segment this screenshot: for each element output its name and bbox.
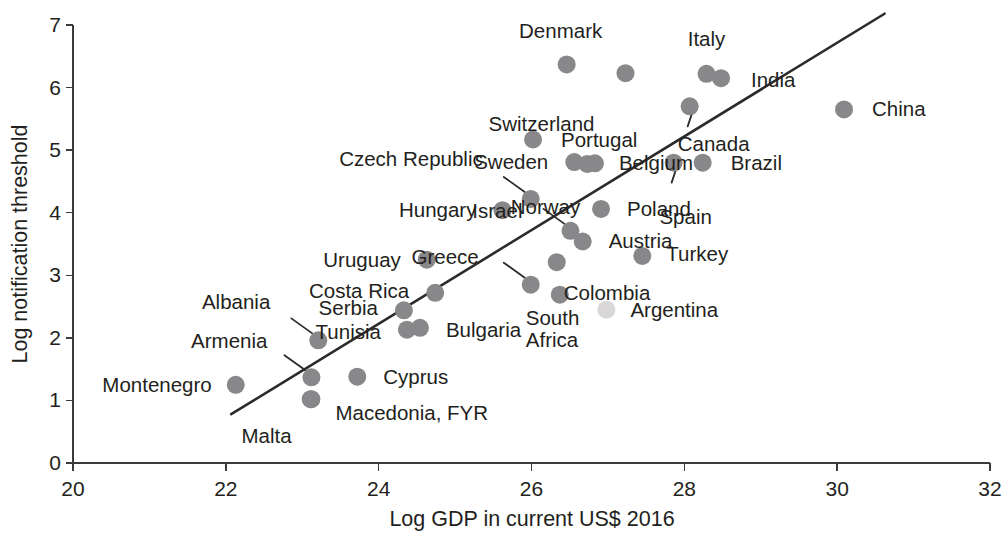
data-point-macedonia-fyr [302, 390, 320, 408]
point-label-greece: Greece [412, 246, 479, 268]
leader-line-20 [504, 177, 525, 192]
x-tick-label-26: 26 [520, 477, 543, 501]
data-point-greece [522, 276, 540, 294]
x-tick-label-24: 24 [367, 477, 390, 501]
point-label-uruguay: Uruguay [323, 249, 401, 271]
point-label-armenia: Armenia [191, 330, 267, 352]
y-axis-title: Log notification threshold [8, 124, 33, 363]
point-label-spain: Spain [659, 206, 711, 228]
x-tick-label-28: 28 [673, 477, 696, 501]
point-label-bulgaria: Bulgaria [446, 319, 521, 341]
point-label-italy: Italy [688, 28, 726, 50]
point-label-china: China [872, 98, 926, 120]
y-tick-label-4: 4 [49, 201, 61, 225]
point-label-denmark: Denmark [519, 20, 602, 42]
data-point-china [835, 100, 853, 118]
point-label-turkey: Turkey [666, 243, 728, 265]
axis-spines [73, 25, 990, 463]
x-tick-label-32: 32 [978, 477, 1001, 501]
point-label-costa-rica: Costa Rica [309, 280, 409, 302]
point-label-montenegro: Montenegro [102, 374, 211, 396]
point-label-belgium: Belgium [619, 152, 693, 174]
data-point-serbia [395, 301, 413, 319]
y-tick-label-5: 5 [49, 138, 61, 162]
point-label-malta: Malta [242, 425, 292, 447]
data-point-colombia [548, 253, 566, 271]
plot-canvas [0, 0, 1007, 547]
x-tick-label-22: 22 [214, 477, 237, 501]
y-tick-label-1: 1 [49, 388, 61, 412]
point-label-tunisia: Tunisia [316, 321, 381, 343]
point-label-austria: Austria [609, 230, 673, 252]
data-point-cyprus [348, 368, 366, 386]
x-tick-label-30: 30 [825, 477, 848, 501]
data-point-belgium [586, 154, 604, 172]
data-point-israel [561, 222, 579, 240]
data-point-switzerland [616, 64, 634, 82]
point-label-macedonia-fyr: Macedonia, FYR [335, 402, 488, 424]
point-label-norway: Norway [511, 196, 581, 218]
data-point-india [712, 69, 730, 87]
leader-line-1 [284, 355, 305, 370]
data-point-brazil [694, 154, 712, 172]
y-tick-label-6: 6 [49, 76, 61, 100]
axes-group [66, 25, 990, 471]
leader-line-11 [504, 263, 525, 278]
data-points-group [227, 55, 853, 408]
data-point-denmark [558, 55, 576, 73]
y-tick-label-0: 0 [49, 451, 61, 475]
leader-line-27 [688, 114, 692, 126]
point-label-argentina: Argentina [630, 299, 718, 321]
point-label-sweden: Sweden [474, 151, 548, 173]
point-label-czech-republic: Czech Republic [339, 148, 483, 170]
y-tick-label-2: 2 [49, 326, 61, 350]
data-point-bulgaria [411, 319, 429, 337]
x-tick-label-20: 20 [61, 477, 84, 501]
data-point-poland [592, 200, 610, 218]
point-label-canada: Canada [678, 133, 750, 155]
x-axis-title: Log GDP in current US$ 2016 [389, 507, 674, 532]
point-label-south-africa-line-2: Africa [526, 329, 580, 351]
data-point-canada [681, 97, 699, 115]
point-label-hungary: Hungary [399, 199, 477, 221]
data-point-montenegro [227, 376, 245, 394]
data-point-costa-rica [426, 284, 444, 302]
data-point-armenia [302, 368, 320, 386]
point-label-switzerland: Switzerland [489, 113, 595, 135]
point-label-south-africa-line-1: South [526, 307, 580, 329]
leader-line-5 [291, 318, 312, 333]
point-label-cyprus: Cyprus [383, 366, 448, 388]
point-label-india: India [751, 69, 795, 91]
scatter-plot-figure: 20222426283032 01234567 MontenegroArmeni… [0, 0, 1007, 547]
data-point-sweden [565, 153, 583, 171]
point-label-south-africa: SouthAfrica [526, 307, 580, 351]
y-tick-label-7: 7 [49, 13, 61, 37]
point-label-albania: Albania [202, 291, 270, 313]
y-tick-label-3: 3 [49, 263, 61, 287]
